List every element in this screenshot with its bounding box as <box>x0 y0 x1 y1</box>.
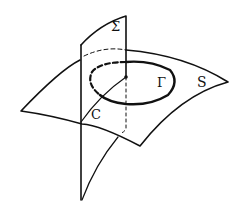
surface-intersection-diagram: Σ Γ S C <box>0 0 242 215</box>
diagram-drawing <box>0 0 242 215</box>
curve-c <box>81 77 126 122</box>
curve-gamma-hidden <box>90 62 126 95</box>
label-gamma: Γ <box>157 76 166 89</box>
label-sigma: Σ <box>111 20 120 33</box>
point-marker <box>124 75 128 79</box>
label-curve-c: C <box>91 108 101 121</box>
sigma-lower-curve <box>82 137 118 200</box>
surface-s-hidden-edge <box>84 49 126 56</box>
label-surface-s: S <box>197 75 207 89</box>
